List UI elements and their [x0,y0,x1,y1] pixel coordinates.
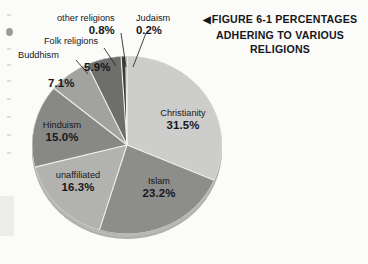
figure-page: ◀FIGURE 6-1 PERCENTAGES ADHERING TO VARI… [0,0,368,264]
slice-value-buddhism-wrap: 7.1% [48,78,90,90]
slice-name-buddhism: Buddhism [18,50,59,62]
slice-value-folk-religions: 5.9% [84,62,126,74]
callout-judaism: Judaism 0.2% [136,13,170,36]
slice-label-unaffiliated: unaffiliated 16.3% [40,170,116,193]
slice-value-buddhism: 7.1% [48,78,90,90]
slice-name-folk-religions: Folk religions [44,36,98,48]
slice-value-islam: 23.2% [128,188,190,200]
slice-value-hinduism: 15.0% [28,132,96,144]
slice-name-other-religions: other religions [57,13,115,25]
slice-label-hinduism: Hinduism 15.0% [28,120,96,143]
slice-label-islam: Islam 23.2% [128,176,190,199]
slice-name-unaffiliated: unaffiliated [40,170,116,182]
slice-value-judaism: 0.2% [136,25,170,37]
callout-buddhism: Buddhism [18,50,59,62]
slice-value-other-religions: 0.8% [57,25,115,37]
slice-name-judaism: Judaism [136,13,170,25]
slice-name-christianity: Christianity [146,108,220,120]
slice-value-unaffiliated: 16.3% [40,182,116,194]
slice-value-christianity: 31.5% [146,120,220,132]
slice-name-hinduism: Hinduism [28,120,96,132]
callout-other-religions: other religions 0.8% [57,13,115,36]
slice-name-islam: Islam [128,176,190,188]
callout-folk-religions: Folk religions [44,36,98,48]
slice-label-christianity: Christianity 31.5% [146,108,220,131]
pie-chart: Christianity 31.5% Islam 23.2% unaffilia… [0,0,368,264]
slice-value-folk-religions-wrap: 5.9% [84,62,126,74]
